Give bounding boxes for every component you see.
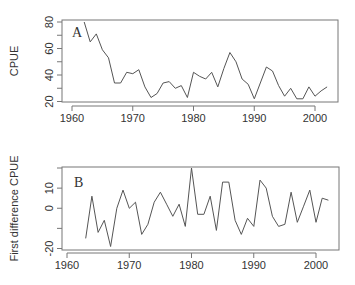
x-tick-label: 1980 — [181, 112, 205, 124]
panel-b-first-difference: -2001019601970198019902000First differen… — [8, 155, 339, 271]
panel-label: A — [72, 25, 83, 40]
y-tick-label: -20 — [43, 241, 55, 257]
x-tick-label: 1990 — [242, 112, 266, 124]
two-panel-line-chart: 2040608019601970198019902000CPUEA -20010… — [0, 0, 355, 285]
figure: 2040608019601970198019902000CPUEA -20010… — [0, 0, 355, 285]
y-tick-label: 80 — [43, 16, 55, 28]
panel-a-cpue: 2040608019601970198019902000CPUEA — [8, 16, 338, 124]
x-tick-label: 1990 — [242, 259, 266, 271]
y-axis-title: First difference CPUE — [8, 155, 20, 261]
x-tick-label: 1960 — [60, 112, 84, 124]
x-tick-label: 2000 — [304, 259, 328, 271]
x-tick-label: 2000 — [303, 112, 327, 124]
x-tick-label: 1980 — [179, 259, 203, 271]
plot-frame — [62, 167, 339, 250]
y-tick-label: 60 — [43, 42, 55, 54]
y-tick-label: 40 — [43, 69, 55, 81]
y-axis-title: CPUE — [8, 46, 20, 77]
y-tick-label: 10 — [43, 182, 55, 194]
x-tick-label: 1970 — [117, 259, 141, 271]
x-tick-label: 1970 — [121, 112, 145, 124]
x-tick-label: 1960 — [55, 259, 79, 271]
y-tick-label: 20 — [43, 95, 55, 107]
panel-label: B — [74, 175, 83, 190]
plot-frame — [62, 20, 338, 102]
y-tick-label: 0 — [43, 205, 55, 211]
data-series-line — [84, 22, 327, 99]
data-series-line — [86, 168, 329, 247]
